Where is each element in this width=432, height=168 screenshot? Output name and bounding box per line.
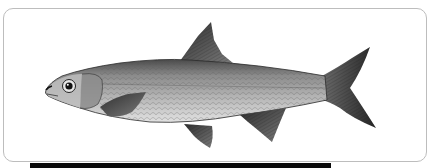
- bottom-bar: [30, 163, 331, 168]
- fish-eye: [63, 80, 76, 93]
- caudal-fin: [322, 47, 376, 128]
- fish-illustration: [0, 0, 432, 168]
- pelvic-fin: [184, 124, 213, 148]
- fish-head: [46, 74, 103, 109]
- dorsal-fin: [180, 22, 233, 63]
